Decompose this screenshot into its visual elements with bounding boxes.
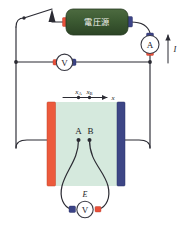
circuit-diagram-figure: 電圧源 A I V <box>0 0 182 232</box>
cathode-electrode <box>117 102 125 186</box>
source-to-ammeter-wire <box>131 22 150 33</box>
current-arrow-group: I <box>168 35 178 63</box>
main-voltmeter-label: V <box>61 58 68 68</box>
probe-voltmeter-left-terminal <box>69 206 76 213</box>
switch-blade[interactable] <box>24 9 52 18</box>
probe-voltmeter-label: V <box>82 205 89 215</box>
position-axis: xA xB x <box>63 88 115 102</box>
anode-electrode <box>47 102 56 186</box>
ammeter[interactable]: A <box>141 33 159 56</box>
electrolyte-region <box>55 102 118 186</box>
ammeter-label: A <box>147 40 154 50</box>
circuit-diagram-svg: 電圧源 A I V <box>0 0 182 232</box>
x-axis-name: x <box>110 94 115 102</box>
voltage-source[interactable]: 電圧源 <box>63 9 133 35</box>
x-a-marker <box>77 96 80 99</box>
source-label: 電圧源 <box>84 18 109 27</box>
switch-terminal-post <box>49 9 56 22</box>
right-junction-node <box>148 60 152 64</box>
x-b-marker <box>88 96 91 99</box>
probe-voltmeter[interactable]: V E <box>69 190 101 218</box>
main-voltmeter-branch <box>14 60 152 64</box>
left-electrode-connection-wire <box>16 140 52 148</box>
left-junction-node <box>14 60 18 64</box>
probe-a-label: A <box>75 126 82 136</box>
main-voltmeter[interactable]: V <box>53 54 76 70</box>
electrolyte-cell <box>47 102 125 186</box>
current-label: I <box>173 44 178 54</box>
left-top-corner-wire <box>16 18 24 27</box>
probe-b-label: B <box>87 126 93 136</box>
emf-label: E <box>82 190 88 199</box>
knife-switch[interactable] <box>22 9 55 22</box>
x-b-label: xB <box>85 88 92 97</box>
probe-voltmeter-right-terminal <box>95 207 101 213</box>
x-a-label: xA <box>74 88 82 97</box>
switch-pivot-contact <box>22 16 25 19</box>
